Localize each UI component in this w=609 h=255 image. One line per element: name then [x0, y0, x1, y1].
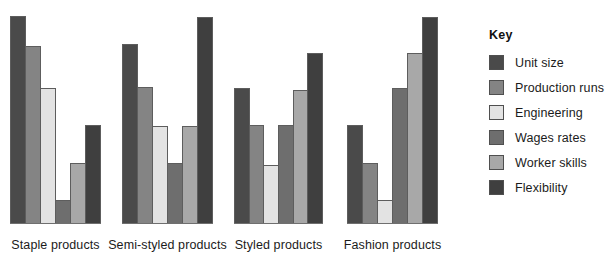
x-axis-label-semi-styled-products: Semi-styled products [108, 238, 227, 252]
bar-production-runs [25, 46, 41, 224]
bar-production-runs [362, 163, 378, 224]
bar-flexibility [85, 125, 101, 224]
legend: Key Unit size Production runs Engineerin… [489, 28, 609, 200]
legend-label-flexibility: Flexibility [515, 181, 568, 195]
bar-wages-rates [55, 200, 71, 224]
bar-unit-size [347, 125, 363, 224]
legend-item-wages-rates: Wages rates [489, 125, 609, 150]
bar-wages-rates [392, 88, 408, 224]
group-baseline [347, 223, 438, 224]
bar-worker-skills [293, 90, 309, 224]
legend-label-engineering: Engineering [515, 106, 583, 120]
legend-swatch-unit-size [489, 55, 504, 70]
x-axis-label-styled-products: Styled products [235, 238, 323, 252]
legend-item-production-runs: Production runs [489, 75, 609, 100]
legend-label-worker-skills: Worker skills [515, 156, 587, 170]
bar-worker-skills [70, 163, 86, 224]
bar-group-bars [347, 16, 438, 224]
bar-flexibility [197, 17, 213, 224]
legend-label-wages-rates: Wages rates [515, 131, 586, 145]
bar-engineering [263, 165, 279, 224]
bar-worker-skills [407, 53, 423, 224]
bar-production-runs [249, 125, 265, 224]
legend-item-unit-size: Unit size [489, 50, 609, 75]
bar-flexibility [422, 17, 438, 224]
bar-unit-size [122, 44, 138, 224]
plot-area: Staple products Semi-styled products [0, 0, 470, 255]
bar-unit-size [234, 88, 250, 224]
bar-group-staple-products: Staple products [10, 16, 101, 224]
bar-wages-rates [167, 163, 183, 224]
x-axis-label-staple-products: Staple products [11, 238, 99, 252]
group-baseline [122, 223, 213, 224]
legend-label-unit-size: Unit size [515, 56, 564, 70]
group-baseline [10, 223, 101, 224]
bar-chart-figure: Staple products Semi-styled products [0, 0, 609, 255]
legend-swatch-flexibility [489, 180, 504, 195]
legend-title: Key [489, 28, 609, 42]
bar-group-styled-products: Styled products [234, 16, 323, 224]
legend-swatch-production-runs [489, 80, 504, 95]
x-axis-label-fashion-products: Fashion products [344, 238, 442, 252]
bar-group-semi-styled-products: Semi-styled products [122, 16, 213, 224]
group-baseline [234, 223, 323, 224]
bar-wages-rates [278, 125, 294, 224]
legend-swatch-wages-rates [489, 130, 504, 145]
legend-item-flexibility: Flexibility [489, 175, 609, 200]
bar-production-runs [137, 87, 153, 224]
legend-item-worker-skills: Worker skills [489, 150, 609, 175]
bar-engineering [152, 126, 168, 224]
bar-group-bars [234, 16, 323, 224]
bar-engineering [40, 88, 56, 224]
bar-engineering [377, 200, 393, 224]
bar-unit-size [10, 16, 26, 224]
bar-flexibility [307, 53, 323, 224]
legend-item-engineering: Engineering [489, 100, 609, 125]
bar-group-fashion-products: Fashion products [347, 16, 438, 224]
bar-group-bars [122, 16, 213, 224]
bar-worker-skills [182, 126, 198, 224]
bar-group-bars [10, 16, 101, 224]
legend-swatch-engineering [489, 105, 504, 120]
legend-swatch-worker-skills [489, 155, 504, 170]
legend-label-production-runs: Production runs [515, 81, 604, 95]
